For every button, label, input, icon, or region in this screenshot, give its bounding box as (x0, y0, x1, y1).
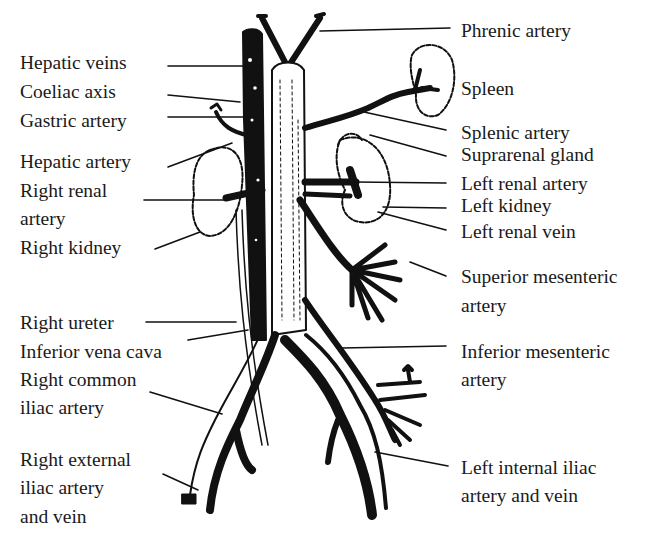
left-common-iliac-artery (285, 340, 372, 515)
left-internal-iliac (328, 420, 338, 462)
label-splenic-artery: Splenic artery (461, 122, 570, 144)
label-left-renal-artery: Left renal artery (461, 173, 588, 195)
label-right-kidney: Right kidney (20, 237, 121, 259)
label-inferior-mesenteric-cont: artery (461, 369, 506, 391)
right-external-iliac-end (182, 494, 196, 504)
label-hepatic-veins: Hepatic veins (20, 52, 127, 74)
left-renal-vein (305, 194, 350, 196)
label-left-internal-iliac-cont: artery and vein (461, 485, 578, 507)
label-gastric-artery: Gastric artery (20, 110, 127, 132)
label-suprarenal-gland: Suprarenal gland (461, 144, 594, 166)
inferior-mesenteric-branches (378, 366, 425, 445)
label-left-kidney: Left kidney (461, 195, 551, 217)
label-superior-mesenteric-cont: artery (461, 295, 506, 317)
label-superior-mesenteric: Superior mesenteric (461, 266, 618, 288)
label-right-external-iliac-cont: iliac artery (20, 477, 104, 499)
label-left-renal-vein: Left renal vein (461, 221, 576, 243)
label-phrenic-artery: Phrenic artery (461, 20, 571, 42)
label-left-internal-iliac: Left internal iliac (461, 457, 596, 479)
label-right-external-iliac: Right external (20, 449, 131, 471)
label-right-ureter: Right ureter (20, 312, 114, 334)
label-right-common-iliac: Right common (20, 369, 136, 391)
superior-mesenteric-branches (352, 245, 400, 320)
label-coeliac-axis: Coeliac axis (20, 81, 116, 103)
anatomy-diagram: Hepatic veins Coeliac axis Gastric arter… (0, 0, 664, 540)
label-hepatic-artery: Hepatic artery (20, 151, 131, 173)
label-inferior-mesenteric: Inferior mesenteric (461, 341, 610, 363)
label-spleen: Spleen (461, 78, 514, 100)
label-inferior-vena-cava: Inferior vena cava (20, 341, 162, 363)
label-right-external-iliac-cont2: and vein (20, 506, 87, 528)
phrenic-arteries (262, 18, 320, 66)
label-right-renal-artery-cont: artery (20, 208, 65, 230)
label-right-renal-artery: Right renal (20, 180, 107, 202)
right-kidney (193, 147, 243, 236)
label-right-common-iliac-cont: iliac artery (20, 397, 104, 419)
